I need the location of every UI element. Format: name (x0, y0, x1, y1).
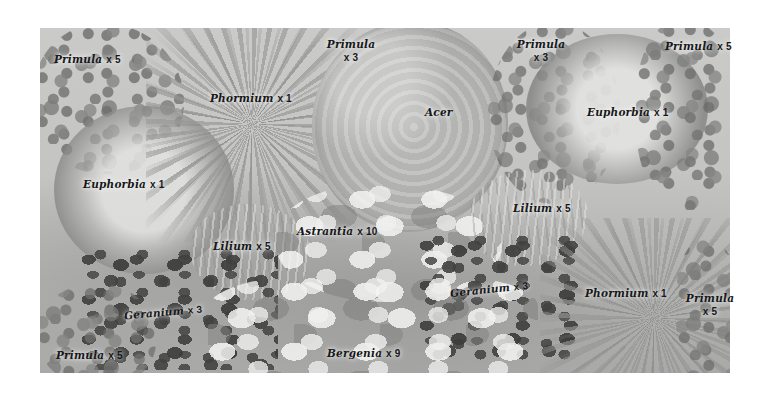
label-primula-top-center: Primula x 3 (322, 38, 380, 64)
label-quantity: x 3 (534, 52, 549, 63)
label-quantity: x 3 (344, 52, 359, 63)
label-plant-name: Lilium (213, 240, 252, 252)
planting-plan: Primula x 5 Phormium x 1 Primula x 3 Ace… (0, 0, 767, 406)
label-primula-top-left: Primula x 5 (54, 53, 121, 66)
label-euphorbia-left: Euphorbia x 1 (83, 178, 164, 191)
label-phormium-top-left: Phormium x 1 (210, 92, 292, 105)
label-quantity: x 5 (556, 203, 571, 214)
label-plant-name: Lilium (513, 202, 552, 214)
label-quantity: x 5 (703, 306, 718, 317)
label-plant-name: Primula (327, 38, 375, 50)
label-plant-name: Primula (56, 349, 104, 361)
garden-bed (40, 28, 730, 373)
label-phormium-bottom-right: Phormium x 1 (585, 287, 667, 300)
plant-primula-mass-far-right (636, 28, 730, 210)
label-plant-name: Primula (517, 38, 565, 50)
label-acer-center: Acer (425, 106, 453, 119)
label-quantity: x 5 (717, 41, 732, 52)
label-quantity: x 5 (108, 350, 123, 361)
label-plant-name: Bergenia (327, 347, 382, 359)
label-plant-name: Euphorbia (587, 106, 650, 118)
label-plant-name: Acer (425, 106, 453, 118)
label-quantity: x 5 (256, 241, 271, 252)
label-primula-bottom-left: Primula x 5 (56, 349, 123, 362)
label-plant-name: Phormium (585, 287, 649, 299)
label-plant-name: Primula (54, 53, 102, 65)
label-plant-name: Primula (686, 292, 734, 304)
label-quantity: x 1 (654, 107, 669, 118)
label-plant-name: Primula (665, 40, 713, 52)
label-quantity: x 5 (106, 54, 121, 65)
label-lilium-right: Lilium x 5 (513, 202, 571, 215)
label-primula-top-right-mid: Primula x 3 (512, 38, 570, 64)
label-plant-name: Phormium (210, 92, 274, 104)
label-astrantia-center: Astrantia x 10 (297, 225, 377, 238)
label-quantity: x 1 (150, 179, 165, 190)
label-quantity: x 3 (513, 280, 529, 292)
label-lilium-left: Lilium x 5 (213, 240, 271, 253)
label-quantity: x 1 (652, 288, 667, 299)
label-bergenia-bottom: Bergenia x 9 (327, 347, 401, 360)
label-quantity: x 3 (187, 304, 202, 316)
label-euphorbia-right: Euphorbia x 1 (587, 106, 668, 119)
label-primula-top-right: Primula x 5 (665, 40, 732, 53)
label-quantity: x 1 (277, 93, 292, 104)
label-quantity: x 10 (357, 226, 377, 237)
label-quantity: x 9 (386, 348, 401, 359)
label-primula-bottom-right: Primula x 5 (681, 292, 739, 318)
label-plant-name: Astrantia (297, 225, 353, 237)
label-plant-name: Euphorbia (83, 178, 146, 190)
